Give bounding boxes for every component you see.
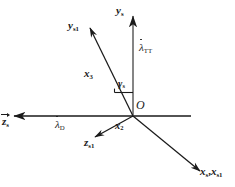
segment-label-x-3-sub: 3	[90, 73, 93, 80]
x-s-axis-line	[133, 116, 200, 171]
vector-label-lambda-tt-sub: TT	[144, 47, 152, 54]
coordinate-system-diagram: ys λTT ys1 x3 γs O zs λD x2 zs1 xs,xs1	[0, 0, 235, 187]
y-s1-axis-line	[90, 28, 133, 116]
axis-label-z-s: zs	[2, 116, 9, 128]
segment-label-x-3: x3	[84, 68, 93, 80]
diagram-canvas	[0, 0, 235, 187]
axis-label-y-s1-sub: s1	[73, 25, 79, 32]
vector-label-lambda-d: λD	[55, 119, 65, 131]
angle-label-gamma-s: γs	[118, 79, 125, 90]
segment-label-x-2: x2	[115, 121, 124, 132]
vector-label-lambda-d-sub: D	[60, 124, 65, 131]
axis-label-z-s1-sub: s1	[88, 142, 94, 149]
axis-label-y-s: ys	[116, 5, 124, 17]
axis-label-y-s-sub: s	[121, 10, 124, 17]
axis-label-z-s-sub: s	[6, 121, 9, 128]
vector-label-lambda-tt: λTT	[139, 42, 152, 54]
origin-label: O	[136, 99, 145, 111]
segment-label-x-2-sub: 2	[120, 124, 123, 131]
vector-label-lambda-d-base: λ	[55, 119, 60, 130]
vector-label-lambda-tt-base: λ	[139, 42, 144, 53]
angle-label-gamma-s-sub: s	[122, 82, 125, 89]
z-s1-axis-line	[95, 116, 133, 137]
axis-label-x-s-x-s1: xs,xs1	[200, 166, 222, 178]
axis-label-x-s1-sub: s1	[216, 171, 222, 178]
axis-label-z-s1: zs1	[84, 137, 94, 149]
axis-label-y-s1: ys1	[68, 20, 79, 32]
